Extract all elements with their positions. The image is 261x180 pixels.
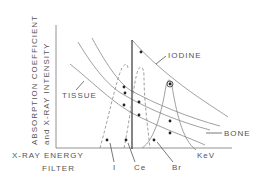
point xyxy=(138,114,141,117)
tissue-arrow xyxy=(76,81,84,90)
point xyxy=(123,86,126,89)
filter-iodine-pointer xyxy=(110,143,114,162)
tissue-label: TISSUE xyxy=(62,91,97,100)
absorption-diagram: ABSORPTION COEFFICIENT and X-RAY INTENSI… xyxy=(0,0,261,180)
iodine-label: IODINE xyxy=(168,51,202,60)
tissue-curve xyxy=(70,64,205,145)
point xyxy=(125,139,128,142)
point xyxy=(138,101,141,104)
filter-label-cerium: Ce xyxy=(134,163,146,172)
filter-label-iodine: I xyxy=(113,163,116,172)
filter-label-bromine: Br xyxy=(172,163,182,172)
y-axis-label-line1: ABSORPTION COEFFICIENT xyxy=(30,15,39,145)
iodine-arrow xyxy=(156,56,166,64)
cerium-filter-spectrum xyxy=(124,67,150,148)
filter-bromine-pointer xyxy=(157,142,173,162)
point xyxy=(140,51,143,54)
point xyxy=(106,139,109,142)
bromine-filter-spectrum xyxy=(142,80,196,150)
data-points xyxy=(106,51,172,142)
point xyxy=(124,92,127,95)
point xyxy=(169,83,172,86)
point xyxy=(123,104,126,107)
point xyxy=(169,120,172,123)
point xyxy=(153,139,156,142)
bone-label: BONE xyxy=(224,129,251,138)
x-axis-label: X-RAY ENERGY xyxy=(12,151,84,160)
y-axis-label-line2: and X-RAY INTENSITY xyxy=(42,43,51,145)
point xyxy=(169,132,172,135)
filter-label: FILTER xyxy=(42,164,75,173)
x-axis-unit: KeV xyxy=(197,151,215,160)
